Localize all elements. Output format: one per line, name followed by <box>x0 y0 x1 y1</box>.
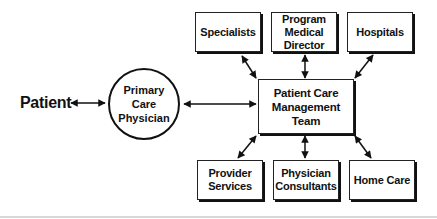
physician-consultants-node: Physician Consultants <box>273 160 339 200</box>
home-care-node: Home Care <box>349 160 415 200</box>
arrow-team-specialists <box>242 56 256 78</box>
arrow-team-homecare <box>355 136 371 158</box>
primary-care-physician-node: Primary Care Physician <box>108 68 180 140</box>
program-medical-director-node: Program Medical Director <box>271 12 337 52</box>
arrow-team-provider <box>238 136 256 158</box>
provider-services-node: Provider Services <box>197 160 263 200</box>
specialists-node: Specialists <box>195 12 261 52</box>
hospitals-node: Hospitals <box>347 12 413 52</box>
patient-care-management-team-node: Patient Care Management Team <box>258 79 354 134</box>
patient-label: Patient <box>20 94 71 112</box>
arrow-team-hospitals <box>355 55 373 78</box>
footer-rule <box>0 216 437 218</box>
